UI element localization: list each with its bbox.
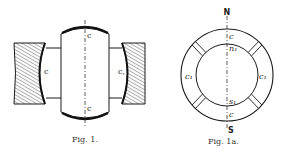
label-s1: s₁	[229, 97, 236, 106]
label-right-c: c,	[118, 67, 125, 76]
caption-fig-1a: Fig. 1a.	[208, 137, 239, 146]
label-left-c1: c₁	[185, 72, 193, 81]
label-bottom-c: c	[229, 110, 234, 119]
label-bottom-c: c	[87, 104, 92, 113]
label-south: S	[228, 126, 234, 135]
label-top-c: c	[229, 32, 234, 41]
label-n1: n₁	[229, 44, 237, 53]
diagram-canvas: c c c c, Fig. 1. N S c c n₁ s₁ c₁ c₁ Fig…	[0, 0, 285, 151]
figure-1: c c c c, Fig. 1.	[14, 20, 145, 144]
caption-fig-1: Fig. 1.	[72, 135, 98, 144]
figure-1a: N S c c n₁ s₁ c₁ c₁ Fig. 1a.	[181, 8, 273, 146]
label-right-c1: c₁	[259, 72, 267, 81]
label-top-c: c	[87, 31, 92, 40]
label-left-c: c	[44, 67, 49, 76]
label-north: N	[224, 8, 231, 17]
